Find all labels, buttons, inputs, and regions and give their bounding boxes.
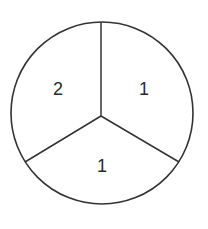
- sector-label-upper-right: 1: [139, 79, 149, 99]
- sector-label-upper-left: 2: [53, 79, 63, 99]
- spinner-diagram: 2 1 1: [0, 0, 208, 229]
- sector-label-bottom: 1: [97, 156, 107, 176]
- spinner-circle: [11, 22, 193, 204]
